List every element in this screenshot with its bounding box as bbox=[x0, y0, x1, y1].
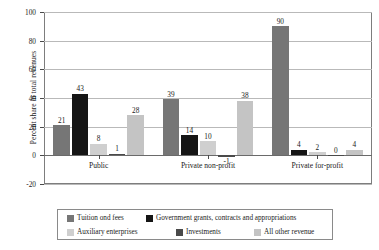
bar bbox=[200, 141, 217, 155]
y-tick-label: -20 bbox=[6, 180, 36, 189]
bar bbox=[291, 150, 308, 156]
legend-swatch-icon bbox=[254, 229, 261, 236]
legend-swatch-icon bbox=[67, 229, 74, 236]
x-tick-label: Private for-profit bbox=[292, 161, 344, 170]
bar-value-label: 4 bbox=[353, 140, 357, 149]
bar-value-label: 4 bbox=[297, 140, 301, 149]
bar-value-label: 39 bbox=[167, 90, 174, 99]
bar-value-label: 0 bbox=[334, 146, 338, 155]
bar-value-label: 90 bbox=[277, 17, 284, 26]
y-gridline bbox=[44, 98, 372, 99]
bar bbox=[109, 154, 126, 155]
x-tick-label: Public bbox=[89, 161, 108, 170]
legend-swatch-icon bbox=[67, 215, 74, 222]
legend-swatch-icon bbox=[176, 229, 183, 236]
y-tick-label: 40 bbox=[6, 94, 36, 103]
y-tick-label: 60 bbox=[6, 65, 36, 74]
bar bbox=[90, 144, 107, 155]
y-gridline bbox=[44, 41, 372, 42]
bar-value-label: 21 bbox=[58, 116, 65, 125]
bar bbox=[272, 26, 289, 155]
plot-area: -2002040608010021438128Public391410-138P… bbox=[44, 12, 372, 184]
legend-swatch-icon bbox=[146, 215, 153, 222]
legend-label: Auxiliary enterprises bbox=[77, 229, 137, 236]
legend-item[interactable]: Auxiliary enterprises bbox=[67, 229, 137, 236]
legend-item[interactable]: All other revenue bbox=[254, 229, 314, 236]
bar-value-label: 10 bbox=[204, 132, 211, 141]
bar bbox=[53, 125, 70, 155]
y-tick-mark bbox=[40, 155, 44, 156]
y-tick-label: 80 bbox=[6, 36, 36, 45]
bar-value-label: 14 bbox=[186, 126, 193, 135]
y-gridline bbox=[44, 12, 372, 13]
y-tick-mark bbox=[40, 127, 44, 128]
y-tick-mark bbox=[40, 69, 44, 70]
legend-label: All other revenue bbox=[264, 229, 314, 236]
y-tick-mark bbox=[40, 41, 44, 42]
legend-item[interactable]: Investments bbox=[176, 229, 221, 236]
bar bbox=[72, 94, 89, 156]
legend-item[interactable]: Government grants, contracts and appropr… bbox=[146, 215, 296, 222]
bar bbox=[328, 155, 345, 156]
legend-row: Auxiliary enterprisesInvestmentsAll othe… bbox=[58, 226, 332, 240]
y-tick-mark bbox=[40, 12, 44, 13]
y-gridline bbox=[44, 127, 372, 128]
legend-item[interactable]: Tuition ond fees bbox=[67, 215, 124, 222]
y-tick-label: 100 bbox=[6, 8, 36, 17]
bar-value-label: 8 bbox=[97, 134, 101, 143]
bar-value-label: 43 bbox=[77, 84, 84, 93]
legend-label: Tuition ond fees bbox=[77, 215, 124, 222]
x-tick-mark bbox=[317, 155, 318, 159]
y-tick-label: 0 bbox=[6, 151, 36, 160]
y-tick-mark bbox=[40, 184, 44, 185]
x-tick-mark bbox=[208, 155, 209, 159]
bar bbox=[346, 150, 363, 156]
legend-row: Tuition ond feesGovernment grants, contr… bbox=[58, 212, 332, 226]
x-tick-mark bbox=[99, 155, 100, 159]
legend-label: Investments bbox=[186, 229, 221, 236]
chart-legend: Tuition ond feesGovernment grants, contr… bbox=[57, 209, 333, 240]
bar-value-label: 28 bbox=[132, 106, 139, 115]
bar bbox=[163, 99, 180, 155]
bar-value-label: 1 bbox=[115, 144, 119, 153]
x-tick-label: Private non-profit bbox=[181, 161, 235, 170]
bar bbox=[237, 101, 254, 155]
y-tick-mark bbox=[40, 98, 44, 99]
legend-label: Government grants, contracts and appropr… bbox=[156, 215, 296, 222]
y-gridline bbox=[44, 184, 372, 185]
bar-value-label: 38 bbox=[241, 91, 248, 100]
bar bbox=[127, 115, 144, 155]
y-tick-label: 20 bbox=[6, 122, 36, 131]
bar-value-label: 2 bbox=[316, 143, 320, 152]
bar bbox=[181, 135, 198, 155]
bar-chart: Percent share in total revenues -2002040… bbox=[0, 0, 379, 250]
y-gridline bbox=[44, 69, 372, 70]
